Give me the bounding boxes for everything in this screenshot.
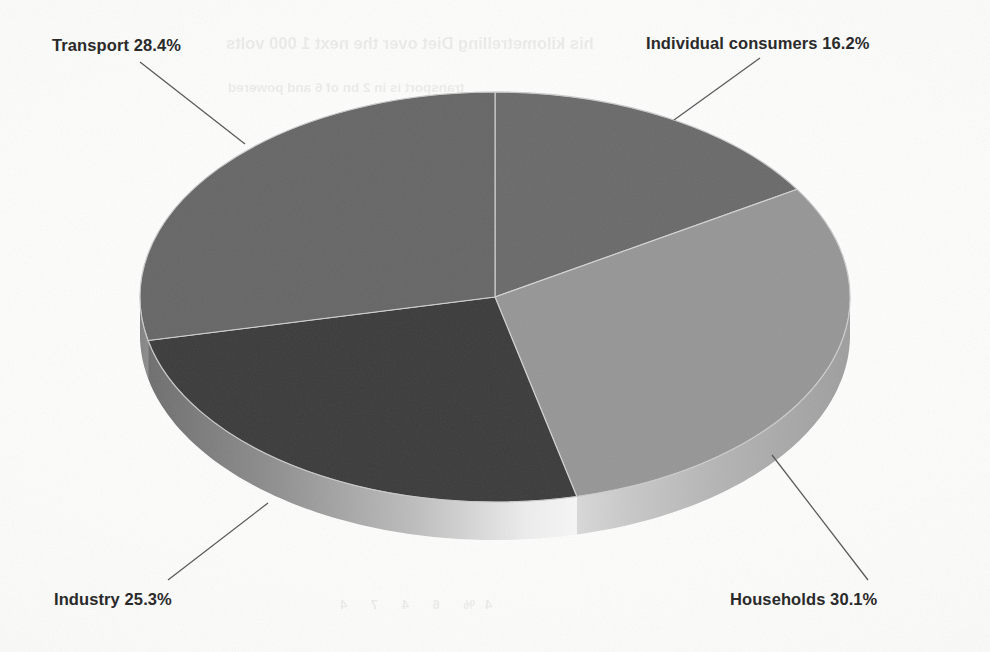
pie-chart-canvas: Transport 28.4% Individual consumers 16.… xyxy=(0,0,990,652)
pie-label-households: Households 30.1% xyxy=(730,590,877,609)
pie-label-industry: Industry 25.3% xyxy=(54,590,172,609)
pie-chart-figure: his kilometrelling Diet over the next 1 … xyxy=(0,0,990,652)
scanner-grain-overlay xyxy=(0,0,990,652)
pie-label-transport: Transport 28.4% xyxy=(52,36,181,55)
pie-label-individual-consumers: Individual consumers 16.2% xyxy=(646,34,870,53)
pie-chart-svg xyxy=(0,0,990,652)
